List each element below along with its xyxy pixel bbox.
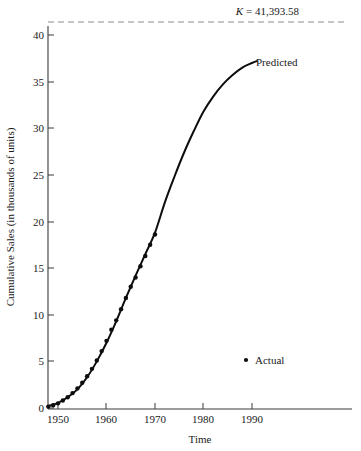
data-point-marker [148,243,152,247]
data-point-marker [114,318,118,322]
predicted-curve [48,61,257,406]
y-tick-label-0: 0 [39,402,45,414]
asymptote-symbol-label: K [235,5,244,17]
y-axis-title: Cumulative Sales (in thousands of units) [4,127,17,306]
x-tick-label-1990: 1990 [241,413,264,425]
y-tick-label-5: 5 [39,355,45,367]
data-point-marker [46,404,50,408]
data-point-marker [51,403,55,407]
x-tick-label-1970: 1970 [144,413,167,425]
predicted-curve-label: Predicted [256,56,298,68]
data-point-marker [99,349,103,353]
data-point-marker [124,296,128,300]
y-tick-label-10: 10 [33,309,45,321]
y-axis-ticks [48,35,54,408]
y-tick-label-15: 15 [33,262,45,274]
data-point-marker [129,285,133,289]
data-point-marker [109,327,113,331]
data-point-marker [143,254,147,258]
actual-data-points [46,232,157,408]
data-point-marker [70,391,74,395]
data-point-marker [104,339,108,343]
legend-dot-icon [244,358,248,362]
data-point-marker [75,386,79,390]
data-point-marker [119,307,123,311]
data-point-marker [56,401,60,405]
x-tick-label-1980: 1980 [192,413,215,425]
data-point-marker [90,367,94,371]
y-tick-label-30: 30 [33,122,45,134]
data-point-marker [153,232,157,236]
y-tick-label-25: 25 [33,169,45,181]
legend-actual-label: Actual [255,354,284,366]
data-point-marker [133,275,137,279]
data-point-marker [95,358,99,362]
y-tick-label-35: 35 [33,76,45,88]
x-tick-label-1950: 1950 [47,413,70,425]
y-tick-label-40: 40 [33,29,45,41]
x-axis-title: Time [189,433,212,445]
chart-figure: K = 41,393.58 0 5 10 15 20 25 30 35 40 [0,0,361,451]
asymptote-value-label: = 41,393.58 [246,5,299,17]
data-point-marker [66,395,70,399]
chart-canvas: K = 41,393.58 0 5 10 15 20 25 30 35 40 [0,0,361,451]
x-tick-label-1960: 1960 [95,413,118,425]
data-point-marker [80,381,84,385]
data-point-marker [61,398,65,402]
data-point-marker [138,264,142,268]
y-tick-label-20: 20 [33,216,45,228]
data-point-marker [85,374,89,378]
x-axis-ticks [58,403,252,409]
